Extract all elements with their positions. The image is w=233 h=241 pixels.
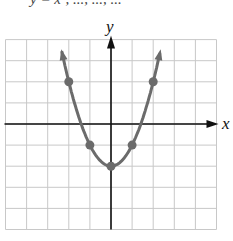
y-axis-arrow-icon bbox=[107, 36, 115, 49]
curve-arrow-icon bbox=[60, 49, 68, 61]
chart-figure: y = x², ..., ..., ... y x bbox=[0, 0, 233, 241]
data-point bbox=[128, 141, 137, 150]
data-point bbox=[85, 141, 94, 150]
data-point bbox=[107, 162, 116, 171]
curve-arrow-icon bbox=[154, 49, 162, 61]
x-axis-label: x bbox=[222, 115, 230, 132]
data-point bbox=[64, 77, 73, 86]
plot-area bbox=[0, 0, 233, 241]
y-axis-label: y bbox=[106, 18, 114, 35]
data-point bbox=[149, 77, 158, 86]
